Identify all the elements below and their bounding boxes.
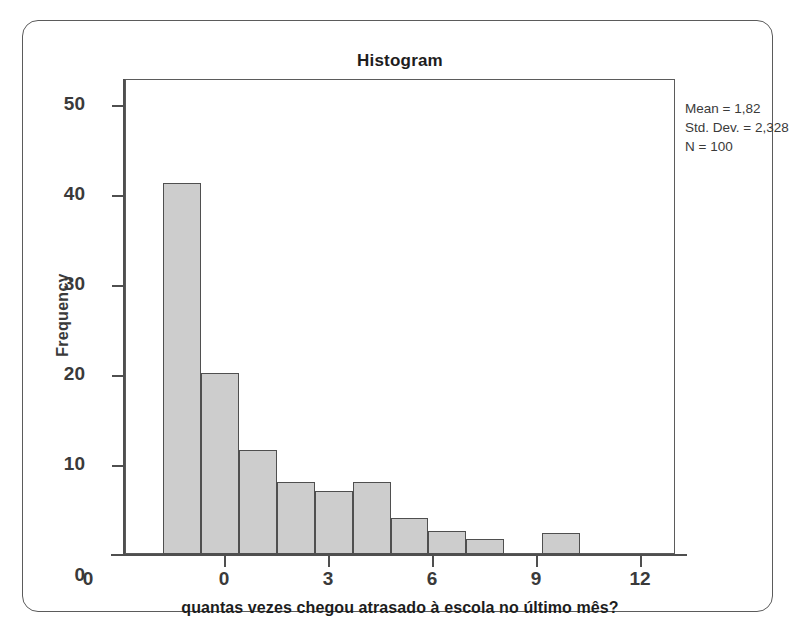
y-axis-tick bbox=[112, 195, 123, 197]
histogram-bar bbox=[391, 518, 429, 554]
x-axis-tick-label: 0 bbox=[204, 568, 244, 590]
histogram-bar bbox=[201, 373, 239, 554]
x-axis-tick-label: 3 bbox=[308, 568, 348, 590]
histogram-bars bbox=[125, 79, 675, 554]
x-axis-tick bbox=[328, 556, 330, 567]
y-axis-tick bbox=[112, 465, 123, 467]
statistics-annotation: Mean = 1,82 Std. Dev. = 2,328 N = 100 bbox=[685, 99, 793, 156]
y-axis-tick-label: 50 bbox=[37, 93, 85, 115]
histogram-bar bbox=[277, 482, 315, 554]
y-axis-tick-label: 10 bbox=[37, 453, 85, 475]
y-axis-title: Frequency bbox=[54, 255, 72, 375]
histogram-bar bbox=[428, 531, 466, 554]
y-axis-tick-label: 40 bbox=[37, 183, 85, 205]
x-axis-tick bbox=[536, 556, 538, 567]
chart-title: Histogram bbox=[125, 51, 675, 71]
x-axis-tick-label: 9 bbox=[516, 568, 556, 590]
histogram-bar bbox=[353, 482, 391, 554]
histogram-bar bbox=[466, 539, 504, 554]
x-axis-tick-label: 12 bbox=[620, 568, 660, 590]
x-axis-title: quantas vezes chegou atrasado à escola n… bbox=[125, 599, 675, 617]
histogram-bar bbox=[315, 491, 353, 554]
y-axis-tick bbox=[112, 105, 123, 107]
histogram-bar bbox=[542, 533, 580, 554]
y-axis-origin-label: 0 bbox=[68, 568, 108, 590]
x-axis-tick bbox=[640, 556, 642, 567]
stat-std-dev: Std. Dev. = 2,328 bbox=[685, 118, 793, 137]
stat-n: N = 100 bbox=[685, 137, 793, 156]
y-axis-tick bbox=[112, 375, 123, 377]
x-axis-tick bbox=[432, 556, 434, 567]
x-axis-tick bbox=[224, 556, 226, 567]
histogram-bar bbox=[163, 183, 201, 554]
x-axis-tick-label: 6 bbox=[412, 568, 452, 590]
stat-mean: Mean = 1,82 bbox=[685, 99, 793, 118]
y-axis-tick bbox=[112, 285, 123, 287]
x-axis-line bbox=[111, 554, 687, 556]
figure-card: Histogram 0 10 20 30 40 50 Frequency 0 3… bbox=[22, 20, 773, 612]
histogram-bar bbox=[239, 450, 277, 554]
y-axis-line bbox=[123, 79, 125, 556]
